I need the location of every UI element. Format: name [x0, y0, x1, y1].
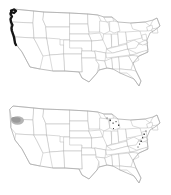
us-map-bottom-svg: [0, 97, 171, 194]
map-panel-bottom[interactable]: [0, 97, 171, 194]
us-map-top-svg: [0, 0, 171, 97]
highlight-oregon-washington-blob: [11, 116, 24, 124]
map-panel-top[interactable]: [0, 0, 171, 97]
figure-container: [0, 0, 171, 195]
